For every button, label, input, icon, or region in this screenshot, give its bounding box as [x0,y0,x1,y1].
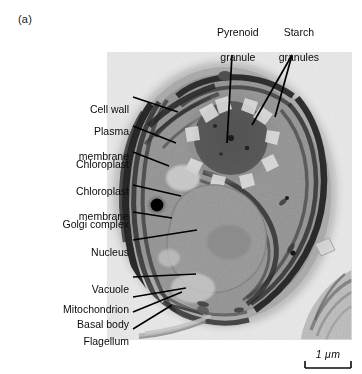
label-starch-granules: Starch granules [254,14,332,76]
scale-bar: 1 μm [300,348,356,370]
label-chloroplast-text: Chloroplast [76,158,129,170]
label-pyrenoid-granule-line1: Pyrenoid [217,26,258,38]
micrograph-render [107,52,352,340]
scale-bar-rule [300,360,356,372]
label-flagellum: Flagellum [0,323,129,360]
label-pyrenoid-granule-line2: granule [220,51,255,63]
figure-panel: (a) [0,0,362,374]
label-chloroplast-membrane-line1: Chloroplast [76,185,129,197]
label-nucleus-text: Nucleus [91,246,129,258]
panel-label: (a) [18,13,32,25]
label-starch-granules-line1: Starch [284,26,314,38]
label-flagellum-text: Flagellum [83,335,129,347]
label-plasma-membrane-line1: Plasma [94,125,129,137]
label-starch-granules-line2: granules [279,51,319,63]
electron-micrograph-image [107,52,352,340]
label-golgi-complex-text: Golgi complex [62,218,129,230]
label-nucleus: Nucleus [0,234,129,271]
scale-bar-label: 1 μm [300,348,356,360]
